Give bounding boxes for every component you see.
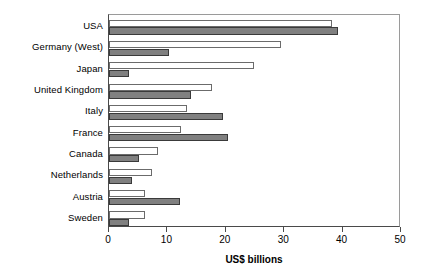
x-axis-tick-label: 20 — [219, 234, 230, 246]
bar-group — [109, 41, 399, 56]
y-axis-label: United Kingdom — [0, 85, 103, 95]
bar-gray — [109, 70, 129, 77]
bar-gray — [109, 49, 169, 56]
bar-white — [109, 84, 212, 91]
y-axis-label: France — [0, 128, 103, 138]
plot-area — [108, 14, 400, 227]
bar-white — [109, 190, 145, 197]
x-axis-tick — [108, 227, 109, 232]
bar-group — [109, 105, 399, 120]
y-axis-label: USA — [0, 21, 103, 31]
bar-white — [109, 126, 181, 133]
x-axis-tick-label: 0 — [105, 234, 111, 246]
bar-white — [109, 62, 254, 69]
bar-gray — [109, 177, 132, 184]
x-axis: 01020304050 — [108, 227, 400, 257]
x-axis-tick — [342, 227, 343, 232]
x-axis-tick — [283, 227, 284, 232]
x-axis-tick-label: 50 — [394, 234, 405, 246]
y-axis-label: Austria — [0, 192, 103, 202]
bar-group — [109, 20, 399, 35]
y-axis-label: Germany (West) — [0, 42, 103, 52]
bar-white — [109, 41, 281, 48]
bar-gray — [109, 155, 139, 162]
bar-gray — [109, 27, 338, 34]
bar-group — [109, 62, 399, 77]
bar-gray — [109, 198, 180, 205]
y-axis-label: Netherlands — [0, 170, 103, 180]
bar-white — [109, 211, 145, 218]
y-axis-label: Canada — [0, 149, 103, 159]
x-axis-tick-label: 40 — [336, 234, 347, 246]
bar-group — [109, 190, 399, 205]
bar-chart: USAGermany (West)JapanUnited KingdomItal… — [0, 0, 425, 278]
bar-white — [109, 147, 158, 154]
bar-white — [109, 169, 152, 176]
x-axis-tick — [400, 227, 401, 232]
y-axis-category-labels: USAGermany (West)JapanUnited KingdomItal… — [0, 14, 103, 227]
x-axis-tick-label: 10 — [161, 234, 172, 246]
y-axis-label: Japan — [0, 64, 103, 74]
x-axis-tick — [166, 227, 167, 232]
bar-white — [109, 20, 332, 27]
bar-group — [109, 147, 399, 162]
bar-group — [109, 84, 399, 99]
bar-gray — [109, 91, 191, 98]
bar-white — [109, 105, 187, 112]
bar-group — [109, 211, 399, 226]
bar-gray — [109, 134, 228, 141]
y-axis-label: Italy — [0, 106, 103, 116]
bar-gray — [109, 219, 129, 226]
x-axis-tick-label: 30 — [278, 234, 289, 246]
bar-group — [109, 169, 399, 184]
bar-gray — [109, 113, 223, 120]
x-axis-tick — [225, 227, 226, 232]
x-axis-title: US$ billions — [108, 254, 400, 265]
bar-group — [109, 126, 399, 141]
y-axis-label: Sweden — [0, 213, 103, 223]
